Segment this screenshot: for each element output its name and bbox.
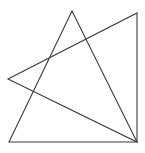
figure-canvas: [0, 0, 145, 153]
background-rect: [0, 0, 145, 153]
two-overlapping-triangles-drawing: [0, 0, 145, 153]
